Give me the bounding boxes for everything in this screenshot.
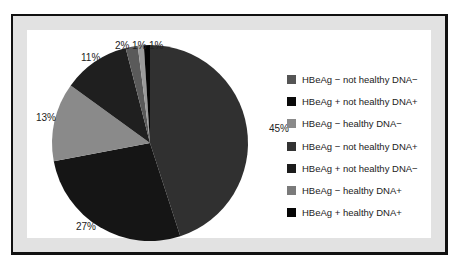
slice-label-27: 27% xyxy=(76,221,96,232)
legend-swatch xyxy=(287,75,296,84)
legend-item: HBeAg − not healthy DNA− xyxy=(287,68,418,90)
legend-label: HBeAg − healthy DNA− xyxy=(302,118,402,129)
legend-item: HBeAg − healthy DNA− xyxy=(287,113,418,135)
slice-label-1b: 1% xyxy=(149,40,163,51)
legend-label: HBeAg + not healthy DNA− xyxy=(302,163,418,174)
legend-item: HBeAg − healthy DNA+ xyxy=(287,179,418,201)
legend-item: HBeAg + not healthy DNA+ xyxy=(287,90,418,112)
legend-item: HBeAg + not healthy DNA− xyxy=(287,157,418,179)
legend-swatch xyxy=(287,142,296,151)
pie-slices xyxy=(52,45,248,241)
legend: HBeAg − not healthy DNA− HBeAg + not hea… xyxy=(287,68,418,224)
slice-label-45: 45% xyxy=(269,123,289,134)
legend-item: HBeAg − not healthy DNA+ xyxy=(287,135,418,157)
legend-swatch xyxy=(287,97,296,106)
legend-label: HBeAg − not healthy DNA− xyxy=(302,74,418,85)
legend-swatch xyxy=(287,119,296,128)
legend-label: HBeAg − healthy DNA+ xyxy=(302,185,402,196)
legend-swatch xyxy=(287,186,296,195)
slice-label-11: 11% xyxy=(81,52,100,63)
legend-item: HBeAg + healthy DNA+ xyxy=(287,202,418,224)
legend-label: HBeAg − not healthy DNA+ xyxy=(302,141,418,152)
slice-label-2: 2% xyxy=(115,40,129,51)
slice-label-13: 13% xyxy=(36,112,56,123)
legend-swatch xyxy=(287,208,296,217)
legend-swatch xyxy=(287,164,296,173)
legend-label: HBeAg + not healthy DNA+ xyxy=(302,96,418,107)
legend-label: HBeAg + healthy DNA+ xyxy=(302,207,402,218)
slice-label-1a: 1% xyxy=(132,40,146,51)
